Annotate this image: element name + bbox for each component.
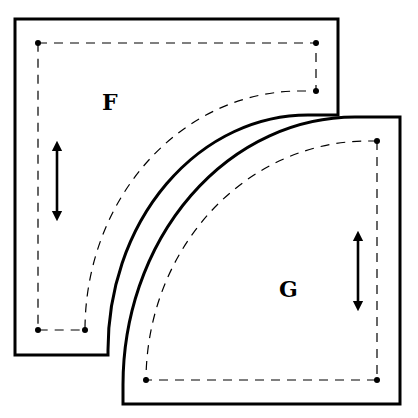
piece-g-corner-dot xyxy=(374,377,380,383)
diagram-canvas: F G xyxy=(0,0,418,418)
piece-f-corner-dot xyxy=(35,327,41,333)
piece-f-corner-dot xyxy=(35,40,41,46)
piece-f-corner-dot xyxy=(313,88,319,94)
piece-f-corner-dot xyxy=(313,40,319,46)
piece-g-label: G xyxy=(279,276,298,302)
piece-f: F xyxy=(15,19,338,355)
piece-f-label: F xyxy=(102,89,118,115)
piece-f-sewing-line xyxy=(38,43,316,330)
piece-g-corner-dot xyxy=(374,138,380,144)
piece-g: G xyxy=(123,117,400,404)
piece-g-sewing-line xyxy=(146,141,377,380)
piece-f-cutting-line xyxy=(15,19,338,355)
piece-f-corner-dot xyxy=(82,327,88,333)
piece-g-corner-dot xyxy=(143,377,149,383)
